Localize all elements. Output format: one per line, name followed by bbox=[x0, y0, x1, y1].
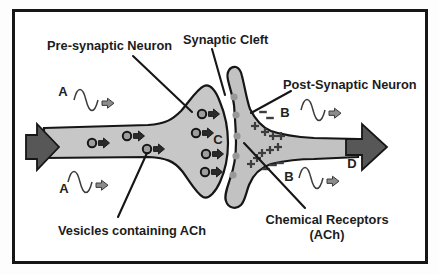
receptor-dot bbox=[232, 152, 239, 159]
receptor-dot bbox=[230, 93, 237, 100]
label-post-synaptic-neuron: Post-Synaptic Neuron bbox=[283, 77, 417, 92]
point-label-a-bottom: A bbox=[59, 181, 69, 196]
point-label-a-top: A bbox=[58, 84, 68, 99]
vesicle-circle bbox=[143, 145, 151, 153]
vesicle-circle bbox=[201, 168, 209, 176]
label-synaptic-cleft: Synaptic Cleft bbox=[183, 32, 269, 47]
receptor-dot bbox=[232, 111, 239, 118]
label-chemical-receptors-ach: (ACh) bbox=[310, 227, 345, 242]
minus-charge bbox=[259, 111, 267, 113]
vesicle-circle bbox=[88, 139, 96, 147]
label-vesicles: Vesicles containing ACh bbox=[58, 223, 206, 238]
point-label-d: D bbox=[347, 156, 356, 171]
minus-charge bbox=[269, 164, 277, 166]
vesicle-circle bbox=[202, 150, 210, 158]
minus-charge bbox=[276, 162, 284, 164]
point-label-b-bottom: B bbox=[284, 169, 293, 184]
receptor-dot bbox=[233, 132, 240, 139]
vesicle-circle bbox=[192, 129, 200, 137]
vesicle-circle bbox=[198, 110, 206, 118]
label-chemical-receptors: Chemical Receptors bbox=[265, 212, 388, 227]
label-pre-synaptic-neuron: Pre-synaptic Neuron bbox=[47, 38, 172, 53]
diagram-canvas: Pre-synaptic Neuron Synaptic Cleft Post-… bbox=[0, 0, 439, 275]
minus-charge bbox=[266, 117, 274, 119]
point-label-c: C bbox=[213, 132, 223, 147]
synapse-diagram: Pre-synaptic Neuron Synaptic Cleft Post-… bbox=[0, 0, 439, 275]
point-label-b-top: B bbox=[280, 105, 289, 120]
receptor-dot bbox=[229, 171, 236, 178]
vesicle-circle bbox=[123, 132, 131, 140]
